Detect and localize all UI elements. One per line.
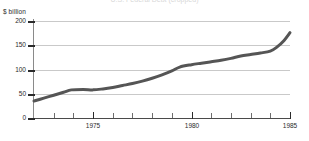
x-tick-minor [172,113,173,118]
x-tick-minor [113,113,114,118]
y-tick-label: 150 [2,41,26,48]
gridline [34,45,290,46]
y-tick [28,94,35,96]
x-tick-major [290,112,291,119]
x-tick-minor [211,113,212,118]
y-tick [28,118,35,120]
chart-title-cropped: U.S. Federal Debt (cropped) [0,0,309,3]
x-axis-line [34,118,291,119]
x-tick-label: 1980 [172,122,212,129]
x-tick-minor [54,113,55,118]
y-tick-label: 200 [2,17,26,24]
x-tick-label: 1985 [270,122,309,129]
x-tick-minor [152,113,153,118]
y-axis-title: $ billion [3,8,26,15]
x-tick-label: 1975 [73,122,113,129]
x-tick-minor [73,113,74,118]
x-tick-major [93,112,94,119]
cropped-title-strip: U.S. Federal Debt (cropped) [0,0,309,7]
x-tick-major [192,112,193,119]
chart-screenshot: U.S. Federal Debt (cropped) $ billion 20… [0,0,309,141]
x-tick-minor [132,113,133,118]
y-tick [28,21,35,23]
y-tick-label: 50 [2,90,26,97]
x-tick-minor [270,113,271,118]
gridline [34,70,290,71]
x-tick-minor [251,113,252,118]
y-tick [28,70,35,72]
y-tick-label: 0 [2,114,26,121]
gridline [34,94,290,95]
y-tick-label: 100 [2,66,26,73]
y-tick [28,45,35,47]
x-tick-minor [231,113,232,118]
gridline [34,21,290,22]
